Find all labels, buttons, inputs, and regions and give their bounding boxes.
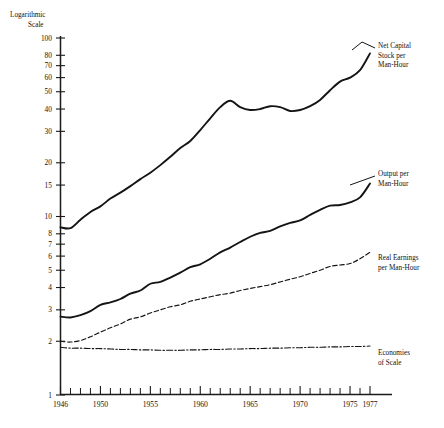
y-tick-label: 60 [45,73,53,82]
y-tick-label: 3 [48,305,52,314]
y-tick-label: 15 [45,181,53,190]
series-label: Output per [378,170,410,178]
y-tick-label: 30 [45,127,53,136]
y-tick-label: 5 [48,266,52,275]
y-tick-label: 2 [48,337,52,346]
series-label: per Man-Hour [378,264,420,272]
x-tick-label: 1960 [193,400,208,409]
y-tick-label: 50 [45,87,53,96]
x-tick-label: 1950 [93,400,108,409]
y-tick-label: 4 [48,283,52,292]
series-line [61,184,371,318]
x-tick-label: 1970 [293,400,308,409]
series-paths [61,53,371,350]
y-tick-label: 7 [48,240,52,249]
y-axis-title-line1: Logarithmic [10,11,46,19]
series-label: of Scale [378,359,401,367]
x-tick-label: 1975 [342,400,357,409]
series-leader-line [350,176,375,185]
series-label: Net Capital [378,42,411,50]
y-axis-ticks: 12345678101520304050607080100 [41,34,65,400]
y-tick-label: 6 [48,252,52,261]
y-tick-label: 40 [45,105,53,114]
line-chart: Logarithmic Scale 1234567810152030405060… [0,0,444,428]
series-label: Economies [378,349,410,357]
series-line [61,346,371,350]
y-tick-label: 1 [48,391,52,400]
series-leader-line [352,42,375,50]
x-tick-label: 1965 [243,400,258,409]
series-label: Real Earnings [378,254,419,262]
chart-container: Logarithmic Scale 1234567810152030405060… [0,0,444,428]
y-tick-label: 100 [41,34,52,43]
y-tick-label: 20 [45,158,53,167]
series-line [61,252,371,342]
y-tick-label: 80 [45,51,53,60]
series-label: Man-Hour [378,180,409,188]
y-tick-label: 70 [45,61,53,70]
x-tick-label: 1946 [53,400,68,409]
y-axis-title-line2: Scale [28,21,44,29]
series-labels: Net CapitalStock perMan-HourOutput perMa… [350,42,420,367]
series-label: Stock per [378,52,406,60]
x-tick-label: 1955 [143,400,158,409]
series-line [61,53,371,228]
series-label: Man-Hour [378,61,409,69]
y-tick-label: 10 [45,212,53,221]
y-tick-label: 8 [48,229,52,238]
x-axis-ticks: 19461950195519601965197019751977 [53,386,378,409]
x-tick-label: 1977 [362,400,377,409]
